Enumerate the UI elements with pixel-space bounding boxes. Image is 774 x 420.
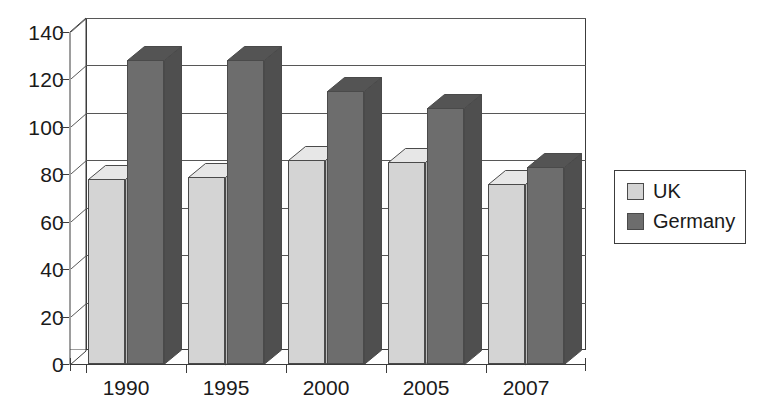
bar-front-face — [188, 177, 225, 364]
x-axis-tick-label: 1990 — [81, 377, 171, 398]
x-axis-tick-mark — [386, 364, 387, 373]
bar-front-face — [288, 160, 325, 364]
y-axis-tick-mark — [60, 364, 69, 365]
grid-line — [86, 18, 586, 19]
bar-uk-2000 — [288, 160, 325, 364]
bar-front-face — [327, 91, 364, 364]
y-axis-tick-mark — [60, 174, 69, 175]
bar-front-face — [488, 184, 525, 364]
x-axis-tick-mark — [86, 364, 87, 373]
bar-front-face — [527, 167, 564, 364]
x-axis-tick-label: 2005 — [381, 377, 471, 398]
y-axis-tick-label: 120 — [28, 69, 64, 90]
bar-uk-1990 — [88, 179, 125, 364]
x-axis-tick-mark — [486, 364, 487, 373]
bar-front-face — [427, 108, 464, 364]
bar-front-face — [88, 179, 125, 364]
grid-depth-edge — [70, 65, 87, 79]
bar-side-face — [364, 77, 383, 366]
grid-depth-edge — [70, 160, 87, 174]
x-axis-end-tick — [70, 358, 71, 371]
y-axis-tick-mark — [60, 127, 69, 128]
bar-side-face — [164, 46, 183, 366]
y-axis-tick-mark — [60, 32, 69, 33]
y-axis-tick-mark — [60, 222, 69, 223]
bar-side-face — [564, 153, 583, 366]
legend-label-germany: Germany — [653, 211, 735, 231]
x-axis-tick-mark — [286, 364, 287, 373]
x-axis-tick-label: 1995 — [181, 377, 271, 398]
x-axis-tick-label: 2007 — [481, 377, 571, 398]
bar-side-face — [264, 46, 283, 366]
grid-depth-edge — [70, 303, 87, 317]
y-axis-tick-mark — [60, 317, 69, 318]
bar-germany-1990 — [127, 60, 164, 364]
bar-front-face — [388, 162, 425, 364]
chart-canvas: 020406080100120140 19901995200020052007 … — [0, 0, 774, 420]
legend-swatch-uk — [627, 183, 644, 200]
plot-area — [70, 18, 586, 364]
legend-label-uk: UK — [653, 181, 681, 201]
legend-swatch-germany — [627, 213, 644, 230]
y-axis-tick-label: 140 — [28, 22, 64, 43]
bar-germany-2007 — [527, 167, 564, 364]
legend-item-germany: Germany — [627, 211, 735, 231]
bar-germany-1995 — [227, 60, 264, 364]
bar-germany-2005 — [427, 108, 464, 364]
grid-depth-edge — [70, 255, 87, 269]
x-axis-tick-label: 2000 — [281, 377, 371, 398]
bar-uk-1995 — [188, 177, 225, 364]
x-axis-end-tick — [585, 358, 586, 371]
bar-side-face — [464, 94, 483, 366]
y-axis-labels: 020406080100120140 — [6, 0, 64, 420]
bar-front-face — [227, 60, 264, 364]
bar-front-face — [127, 60, 164, 364]
bar-uk-2005 — [388, 162, 425, 364]
chart-legend: UK Germany — [614, 170, 746, 244]
grid-depth-edge — [70, 208, 87, 222]
bar-uk-2007 — [488, 184, 525, 364]
x-axis-line — [70, 364, 586, 365]
y-axis-tick-label: 100 — [28, 116, 64, 137]
x-axis-tick-mark — [186, 364, 187, 373]
grid-depth-edge — [70, 18, 87, 32]
y-axis-tick-mark — [60, 79, 69, 80]
grid-depth-edge — [70, 113, 87, 127]
legend-item-uk: UK — [627, 181, 681, 201]
y-axis-tick-mark — [60, 269, 69, 270]
bar-germany-2000 — [327, 91, 364, 364]
